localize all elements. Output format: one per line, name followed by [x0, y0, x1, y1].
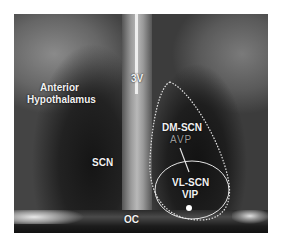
avp-to-vip-arrow — [180, 148, 189, 172]
label-hypothalamus: Hypothalamus — [27, 94, 96, 105]
label-dm-scn: DM-SCN — [162, 122, 202, 133]
label-optic-chiasm: OC — [124, 214, 139, 225]
label-scn: SCN — [92, 157, 113, 168]
label-third-ventricle: 3V — [131, 73, 143, 84]
scn-outline-overlay — [0, 0, 282, 248]
label-avp: AVP — [170, 134, 192, 145]
label-anterior: Anterior — [40, 82, 79, 93]
vip-dot — [186, 205, 192, 211]
label-vip: VIP — [182, 189, 198, 200]
label-vl-scn: VL-SCN — [172, 177, 209, 188]
